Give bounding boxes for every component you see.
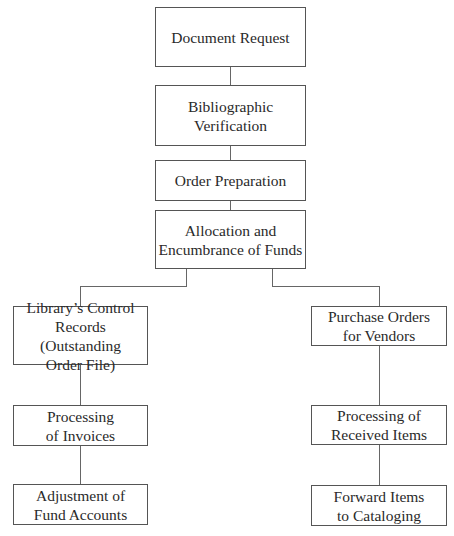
node-allocation-encumbrance: Allocation and Encumbrance of Funds [155,210,306,269]
connector-right-branch-down [379,286,380,306]
connector-left-branch [80,286,187,287]
node-bibliographic-verification: Bibliographic Verification [155,85,306,146]
connector-received-forward [379,444,380,486]
node-adjustment-funds: Adjustment of Fund Accounts [13,484,148,525]
connector-allocation-right-down [272,268,273,287]
connector-orders-received [379,345,380,406]
node-purchase-orders: Purchase Orders for Vendors [311,306,447,346]
connector-invoices-adjustment [80,445,81,485]
node-control-records: Library’s Control Records (Outstanding O… [13,306,148,365]
node-document-request: Document Request [155,7,306,67]
node-processing-invoices: Processing of Invoices [13,405,148,446]
connector-request-verification [230,66,231,86]
connector-verification-preparation [230,145,231,161]
node-forward-items: Forward Items to Cataloging [311,485,447,526]
connector-right-branch [272,286,380,287]
node-order-preparation: Order Preparation [155,160,306,201]
connector-allocation-left-down [186,268,187,287]
node-processing-received: Processing of Received Items [311,405,447,445]
